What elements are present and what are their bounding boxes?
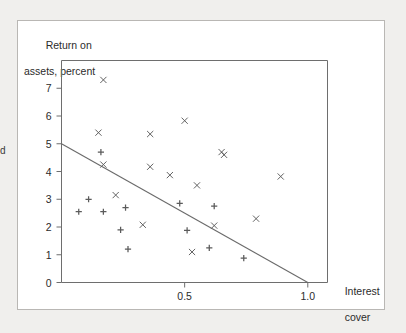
scatter-plot: 012345670.51.0 xyxy=(0,0,406,333)
data-point-plus xyxy=(76,209,82,215)
data-point-plus xyxy=(85,196,91,202)
data-point-cross xyxy=(253,216,259,222)
data-point-plus xyxy=(241,255,247,261)
data-point-cross xyxy=(189,249,195,255)
data-point-cross xyxy=(218,149,224,155)
data-point-plus xyxy=(177,200,183,206)
y-tick-label: 7 xyxy=(46,82,52,94)
data-point-cross xyxy=(147,164,153,170)
data-point-plus xyxy=(98,149,104,155)
data-point-cross xyxy=(95,130,101,136)
data-point-plus xyxy=(118,227,124,233)
data-point-plus xyxy=(211,203,217,209)
data-point-plus xyxy=(184,227,190,233)
y-tick-label: 1 xyxy=(46,249,52,261)
data-point-cross xyxy=(167,172,173,178)
y-tick-label: 2 xyxy=(46,221,52,233)
data-point-plus xyxy=(100,209,106,215)
y-tick-label: 3 xyxy=(46,193,52,205)
y-tick-label: 4 xyxy=(46,166,52,178)
data-point-plus xyxy=(122,204,128,210)
x-tick-label: 0.5 xyxy=(177,290,192,302)
figure-container: d Return on assets, percent Interest cov… xyxy=(0,0,406,333)
data-point-cross xyxy=(147,131,153,137)
y-tick-label: 6 xyxy=(46,110,52,122)
data-point-cross xyxy=(182,118,188,124)
data-point-cross xyxy=(100,77,106,83)
data-point-cross xyxy=(278,173,284,179)
data-point-cross xyxy=(140,222,146,228)
x-tick-label: 1.0 xyxy=(300,290,315,302)
data-point-plus xyxy=(125,246,131,252)
trend-line xyxy=(62,144,308,283)
y-tick-label: 5 xyxy=(46,138,52,150)
data-point-cross xyxy=(211,223,217,229)
data-point-cross xyxy=(113,192,119,198)
y-tick-label: 0 xyxy=(46,277,52,289)
data-point-plus xyxy=(206,245,212,251)
data-point-cross xyxy=(194,182,200,188)
